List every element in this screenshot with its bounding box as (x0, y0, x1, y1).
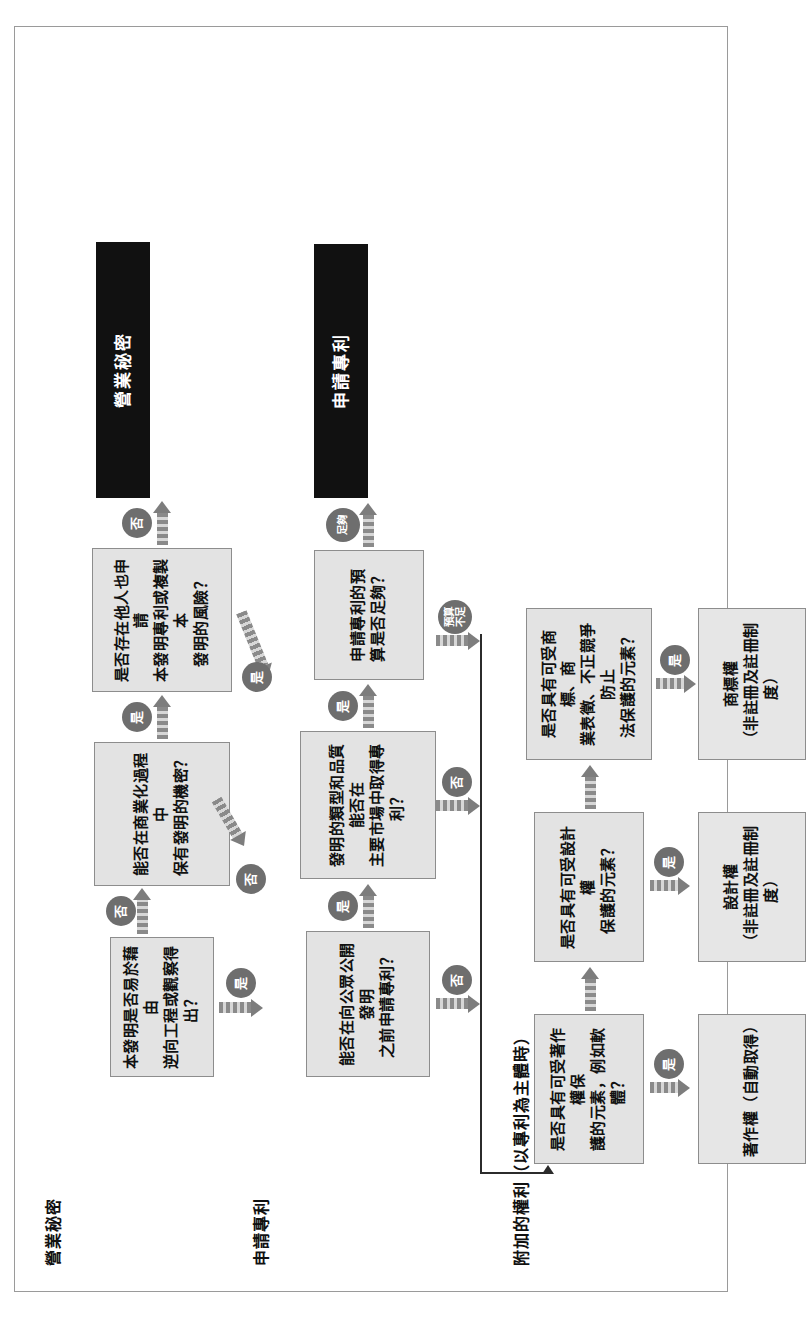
arrow-shaft (436, 636, 468, 647)
arrow-file-before-no (436, 998, 480, 1010)
arrow-shaft (137, 900, 148, 934)
node-design-right-elements[interactable]: 是否具有可受設計權保護的元素？ (534, 812, 644, 962)
arrow-keep-secret-to-third-party (156, 695, 168, 739)
arrow-head (153, 695, 171, 707)
arrow-shaft (650, 1083, 678, 1094)
edge-label-re-no: 否 (106, 896, 136, 926)
arrow-shaft (436, 801, 468, 812)
edge-label-keep-secret-yes: 是 (122, 702, 152, 732)
arrow-head (133, 888, 151, 900)
node-budget-enough[interactable]: 申請專利的預算是否足夠？ (314, 550, 424, 680)
arrow-file-before-to-quality (362, 884, 374, 928)
arrow-head (468, 797, 480, 815)
arrow-shaft (157, 707, 168, 739)
outcome-copyright: 著作權（自動取得） (698, 1014, 806, 1164)
arrow-shaft (436, 999, 468, 1010)
arrow-shaft (363, 696, 374, 728)
node-reverse-engineering[interactable]: 本發明是否易於藉由逆向工程或觀察得出？ (110, 937, 214, 1077)
arrow-head (153, 501, 171, 513)
arrow-head (468, 995, 480, 1013)
node-file-before-disclosure[interactable]: 能否在向公眾公開發明之前申請專利？ (306, 931, 430, 1077)
result-patent: 申請專利 (314, 244, 368, 498)
edge-label-file-before-yes: 是 (328, 891, 358, 921)
edge-label-file-before-no: 否 (442, 965, 472, 995)
arrow-head (581, 765, 599, 777)
arrow-head (359, 684, 377, 696)
arrow-design-yes (650, 880, 690, 892)
section-heading-trade-secret: 營業秘密 (40, 1198, 64, 1266)
arrow-copyright-to-design (584, 967, 596, 1011)
arrow-design-to-trademark (584, 765, 596, 809)
arrow-head (251, 999, 263, 1017)
arrow-budget-not-enough (436, 635, 480, 647)
node-trademark-elements[interactable]: 是否具有可受商標、商業表徵、不正競爭防止法保護的元素？ (526, 608, 652, 760)
diagram-frame: 營業秘密 申請專利 附加的權利（以專利為主體時） 本發明是否易於藉由逆向工程或觀… (14, 26, 728, 1292)
edge-label-budget-not-enough: 預算不足 (438, 600, 472, 634)
arrow-third-party-to-trade-secret (156, 501, 168, 545)
arrow-copyright-yes (650, 1082, 690, 1094)
outcome-trademark: 商標權（非註冊及註冊制度） (698, 608, 806, 760)
arrow-head (359, 884, 377, 896)
edge-label-quality-yes: 是 (328, 691, 358, 721)
node-third-party-risk[interactable]: 是否存在他人也申請本發明專利或複製本發明的風險？ (92, 548, 232, 692)
arrow-shaft (585, 979, 596, 1011)
connector-vertical (480, 1172, 548, 1174)
connector-horizontal (480, 634, 482, 1174)
arrow-budget-to-patent-result (362, 503, 374, 547)
arrow-shaft (650, 881, 678, 892)
arrow-shaft (219, 1003, 251, 1014)
arrow-re-to-keep-secret (136, 888, 148, 934)
arrow-trademark-yes (656, 678, 696, 690)
edge-label-copyright-yes: 是 (654, 1049, 684, 1079)
edge-label-third-party-no: 否 (122, 508, 152, 538)
edge-label-re-yes: 是 (226, 968, 256, 998)
outcome-design-right: 設計權（非註冊及註冊制度） (698, 812, 806, 962)
connector-arrow-head (542, 1165, 554, 1174)
flowchart-stage: 營業秘密 申請專利 附加的權利（以專利為主體時） 本發明是否易於藉由逆向工程或觀… (14, 26, 728, 1292)
result-trade-secret: 營業秘密 (96, 242, 150, 498)
edge-label-quality-no: 否 (442, 767, 472, 797)
arrow-quality-no (436, 800, 480, 812)
arrow-head (684, 675, 696, 693)
section-heading-patent: 申請專利 (248, 1198, 272, 1266)
node-copyright-elements[interactable]: 是否具有可受著作權保護的元素，例如軟體？ (534, 1014, 644, 1164)
edge-label-design-yes: 是 (654, 847, 684, 877)
arrow-head (678, 877, 690, 895)
edge-label-third-party-yes: 是 (242, 662, 272, 692)
edge-label-keep-secret-no: 否 (236, 864, 266, 894)
arrow-shaft (157, 513, 168, 545)
arrow-shaft (237, 610, 269, 668)
edge-label-trademark-yes: 是 (660, 645, 690, 675)
arrow-re-to-file-before (219, 1002, 263, 1014)
node-patentable-quality[interactable]: 發明的類型和品質能否在主要市場中取得專利？ (300, 731, 436, 879)
arrow-shaft (585, 777, 596, 809)
arrow-head (468, 632, 480, 650)
arrow-shaft (656, 679, 684, 690)
arrow-head (581, 967, 599, 979)
arrow-shaft (363, 896, 374, 928)
arrow-head (359, 503, 377, 515)
arrow-quality-to-budget (362, 684, 374, 728)
arrow-head (678, 1079, 690, 1097)
arrow-shaft (363, 515, 374, 547)
edge-label-budget-enough: 足夠 (326, 508, 360, 542)
node-keep-secret[interactable]: 能否在商業化過程中保有發明的機密？ (94, 742, 230, 886)
